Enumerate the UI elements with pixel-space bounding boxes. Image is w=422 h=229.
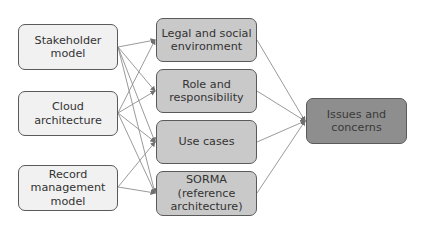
edge-stakeholder-legal: [118, 40, 155, 47]
node-use-cases: Use cases: [156, 120, 257, 164]
node-record-management-model: Record management model: [18, 165, 118, 211]
node-stakeholder-model: Stakeholder model: [18, 24, 118, 70]
node-label: Stakeholder model: [35, 34, 102, 61]
node-issues-and-concerns: Issues and concerns: [306, 98, 407, 144]
node-label: Use cases: [178, 135, 234, 149]
node-label: Issues and concerns: [327, 108, 386, 135]
node-label: Legal and social environment: [161, 27, 251, 54]
node-sorma-reference-architecture: SORMA (reference architecture): [156, 171, 257, 216]
node-cloud-architecture: Cloud architecture: [18, 91, 118, 136]
edge-cloud-sorma: [118, 113, 155, 193]
node-label: SORMA (reference architecture): [170, 173, 242, 214]
edge-legal-issues: [257, 40, 305, 121]
edge-role-issues: [257, 91, 305, 121]
node-label: Role and responsibility: [169, 78, 243, 105]
edge-record-sorma: [118, 187, 155, 193]
node-role-responsibility: Role and responsibility: [156, 69, 257, 113]
node-label: Record management model: [31, 168, 106, 209]
node-legal-social-environment: Legal and social environment: [156, 18, 257, 62]
node-label: Cloud architecture: [34, 100, 102, 127]
